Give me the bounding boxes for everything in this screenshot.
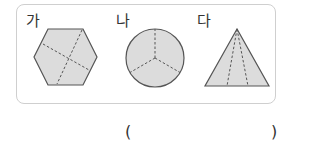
answer-open-paren: (: [125, 124, 131, 140]
triangle-figure: [205, 29, 269, 86]
answer-close-paren: ): [271, 124, 277, 140]
answer-blank[interactable]: [135, 122, 267, 142]
circle-figure: [126, 29, 184, 87]
hexagon-figure: [34, 29, 97, 85]
